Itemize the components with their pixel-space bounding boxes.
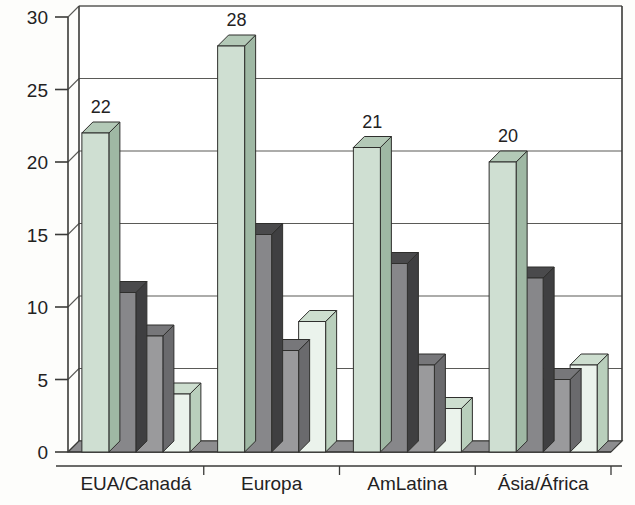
x-axis-category-label: Europa bbox=[241, 473, 303, 494]
bar-value-label: 21 bbox=[362, 112, 382, 132]
bar-serie-1-0 bbox=[82, 122, 120, 452]
bar-serie-1-1 bbox=[218, 35, 256, 452]
y-axis-tick-label: 25 bbox=[27, 80, 48, 101]
bar-serie-1-3 bbox=[489, 151, 527, 452]
y-axis-tick-label: 15 bbox=[27, 225, 48, 246]
bar-chart-figure: 051015202530 22282120 EUA/CanadáEuropaAm… bbox=[0, 0, 635, 505]
x-axis-category-label: EUA/Canadá bbox=[80, 473, 191, 494]
bar-serie-1-2 bbox=[353, 137, 391, 453]
x-axis-category-label: AmLatina bbox=[367, 473, 448, 494]
y-axis-tick-label: 0 bbox=[37, 442, 48, 463]
bar-value-label: 22 bbox=[91, 97, 111, 117]
bar-value-label: 28 bbox=[227, 10, 247, 30]
y-axis-tick-label: 20 bbox=[27, 152, 48, 173]
x-axis-category-label: Ásia/África bbox=[498, 473, 589, 494]
bar-value-label: 20 bbox=[498, 126, 518, 146]
chart-canvas: 051015202530 22282120 EUA/CanadáEuropaAm… bbox=[0, 0, 635, 505]
y-axis-tick-label: 10 bbox=[27, 297, 48, 318]
y-axis-tick-label: 5 bbox=[37, 370, 48, 391]
y-axis-tick-label: 30 bbox=[27, 7, 48, 28]
